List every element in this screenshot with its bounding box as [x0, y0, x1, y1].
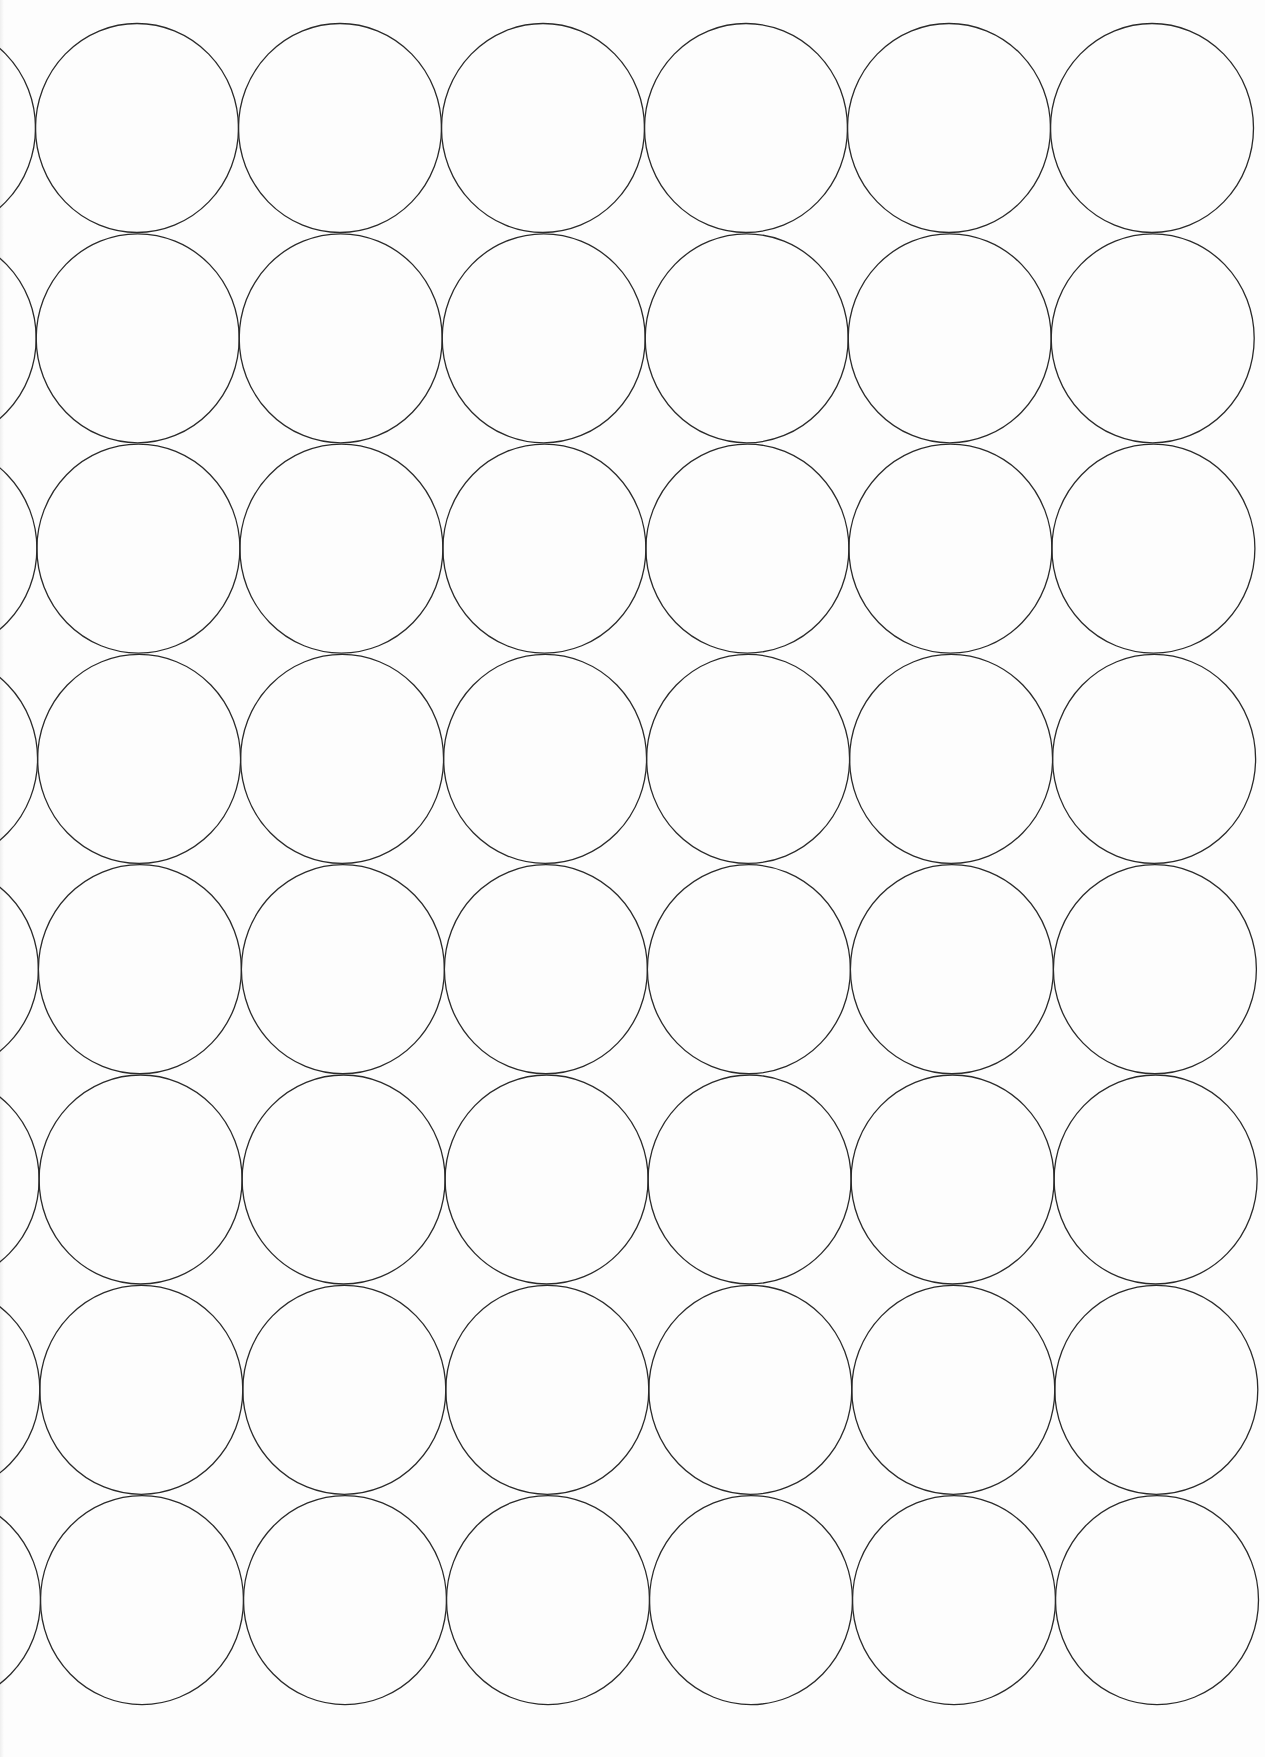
partial-circle-outline: [0, 24, 36, 233]
circle-outline: [241, 654, 444, 863]
circle-outline: [647, 654, 850, 863]
circle-outline: [647, 865, 850, 1074]
circle-outline: [1051, 24, 1254, 233]
circle-outline: [852, 1285, 1055, 1494]
circle-outline: [1053, 654, 1256, 863]
label-sheet: [0, 0, 1265, 1757]
circle-outline: [443, 444, 646, 653]
circle-grid: [0, 0, 1265, 1757]
circle-outline: [244, 1496, 447, 1705]
circle-outline: [36, 234, 239, 443]
circle-outline: [646, 444, 849, 653]
partial-circle-outline: [0, 444, 37, 653]
circle-outline: [1055, 1285, 1258, 1494]
partial-circle-outline: [0, 1075, 39, 1284]
circle-outline: [648, 1075, 851, 1284]
circle-outline: [445, 1075, 648, 1284]
partial-circle-outline: [0, 234, 36, 443]
circle-outline: [241, 865, 444, 1074]
circle-outline: [239, 234, 442, 443]
circle-outline: [848, 24, 1051, 233]
circle-outline: [38, 654, 241, 863]
circle-outline: [444, 654, 647, 863]
partial-circle-outline: [0, 1285, 40, 1494]
circle-outline: [39, 1075, 242, 1284]
circle-outline: [1054, 1075, 1257, 1284]
circle-outline: [650, 1496, 853, 1705]
partial-circle-outline: [0, 654, 38, 863]
circle-outline: [243, 1285, 446, 1494]
circle-outline: [239, 24, 442, 233]
circle-outline: [1053, 865, 1256, 1074]
circle-outline: [851, 1075, 1054, 1284]
circle-outline: [446, 1285, 649, 1494]
circle-outline: [853, 1496, 1056, 1705]
circle-outline: [850, 865, 1053, 1074]
circle-outline: [38, 865, 241, 1074]
circle-outline: [444, 865, 647, 1074]
circle-outline: [645, 24, 848, 233]
circle-outline: [240, 444, 443, 653]
circle-outline: [645, 234, 848, 443]
circle-outline: [36, 24, 239, 233]
circle-outline: [442, 234, 645, 443]
circle-outline: [40, 1285, 243, 1494]
circle-outline: [1056, 1496, 1259, 1705]
circle-outline: [447, 1496, 650, 1705]
circle-outline: [442, 24, 645, 233]
circle-outline: [849, 444, 1052, 653]
circle-outline: [850, 654, 1053, 863]
circle-outline: [1051, 234, 1254, 443]
circle-outline: [41, 1496, 244, 1705]
partial-circle-outline: [0, 1496, 41, 1705]
circle-outline: [242, 1075, 445, 1284]
partial-circle-outline: [0, 865, 38, 1074]
circle-outline: [649, 1285, 852, 1494]
circle-outline: [1052, 444, 1255, 653]
circle-outline: [848, 234, 1051, 443]
circle-outline: [37, 444, 240, 653]
